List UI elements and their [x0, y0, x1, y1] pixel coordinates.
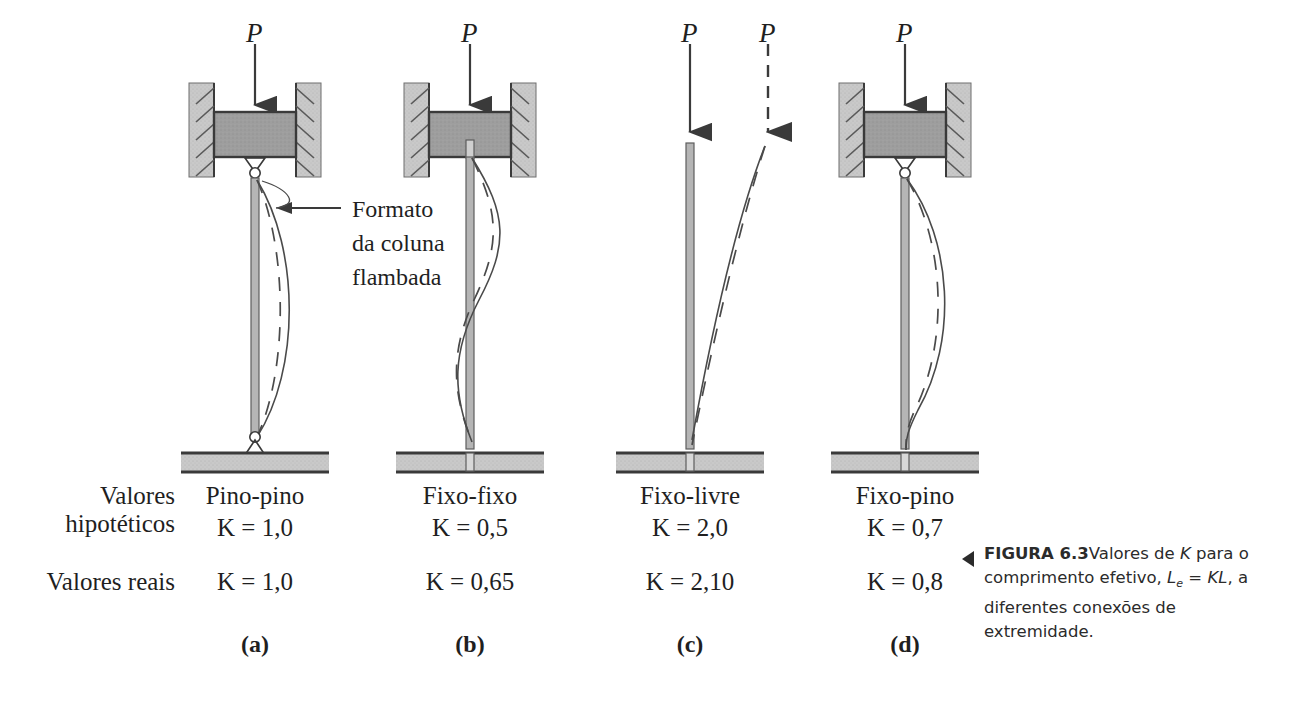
case-d-load-symbol: P	[896, 18, 913, 49]
case-c-buckled-shape-dashed	[692, 146, 765, 445]
case-d-base-plate	[831, 453, 979, 472]
case-d-left-wall	[839, 83, 864, 177]
row-label-hypothetical-line1: Valores	[100, 482, 175, 509]
case-c-column	[686, 143, 694, 449]
case-d-diagram	[831, 44, 979, 472]
case-d-guided-block	[864, 112, 946, 157]
caption-symbol-le: L	[1167, 568, 1176, 587]
case-d-top-pin	[895, 158, 915, 178]
case-a-guided-block	[214, 112, 296, 157]
case-d-right-wall	[946, 83, 971, 177]
case-d-buckled-shape-dashed	[906, 179, 938, 450]
case-a-load-symbol: P	[246, 18, 263, 49]
case-b-name: Fixo-fixo	[423, 482, 517, 510]
row-label-hypothetical: Valores hipotéticos	[0, 482, 175, 538]
case-b-base-plate	[396, 453, 544, 472]
case-c-sublabel: (c)	[677, 631, 704, 658]
case-b-top-fixed-joint	[466, 140, 474, 158]
case-a-column	[251, 178, 259, 436]
case-c-diagram	[616, 44, 768, 472]
case-a-name: Pino-pino	[206, 482, 305, 510]
case-b-load-symbol: P	[461, 18, 478, 49]
caption-symbol-equation: = KL	[1183, 568, 1227, 587]
case-d-name: Fixo-pino	[856, 482, 955, 510]
row-label-hypothetical-line2: hipotéticos	[0, 510, 175, 538]
case-c-k-real: K = 2,10	[646, 568, 734, 596]
caption-arrow-icon	[962, 551, 974, 567]
case-b-buckled-shape-dashed	[457, 158, 494, 442]
case-c-base-plate	[616, 453, 764, 472]
case-b-left-wall	[404, 83, 429, 177]
case-b-column	[466, 157, 474, 449]
case-d-k-hypothetical: K = 0,7	[867, 514, 943, 542]
case-c-load-symbol-dashed: P	[759, 18, 776, 49]
case-b-sublabel: (b)	[455, 631, 484, 658]
case-a-base-plate	[181, 453, 329, 472]
case-a-buckled-shape-solid	[257, 180, 289, 437]
case-a-buckled-shape-dashed	[257, 180, 280, 437]
figure-6-3: P P P P P Formato da coluna flambada Val…	[0, 0, 1299, 728]
row-label-real: Valores reais	[0, 568, 175, 596]
caption-symbol-k: K	[1180, 544, 1191, 563]
caption-figure-number: FIGURA 6.3	[984, 544, 1089, 563]
buckled-shape-annotation: Formato da coluna flambada	[352, 192, 445, 294]
case-a-k-hypothetical: K = 1,0	[217, 514, 293, 542]
case-a-top-pin	[245, 158, 265, 178]
case-a-left-wall	[189, 83, 214, 177]
case-a-diagram	[181, 44, 329, 472]
case-b-buckled-shape-solid	[458, 158, 500, 442]
case-a-right-wall	[296, 83, 321, 177]
case-d-column	[901, 178, 909, 449]
figure-caption: FIGURA 6.3Valores de K para o compriment…	[984, 542, 1284, 644]
case-b-right-wall	[511, 83, 536, 177]
case-a-k-real: K = 1,0	[217, 568, 293, 596]
case-d-k-real: K = 0,8	[867, 568, 943, 596]
caption-text-1: Valores de	[1089, 544, 1180, 563]
case-c-k-hypothetical: K = 2,0	[652, 514, 728, 542]
case-b-k-real: K = 0,65	[426, 568, 514, 596]
case-c-name: Fixo-livre	[640, 482, 740, 510]
case-d-sublabel: (d)	[890, 631, 919, 658]
annotation-leader	[262, 181, 341, 214]
case-c-load-symbol-solid: P	[681, 18, 698, 49]
case-b-k-hypothetical: K = 0,5	[432, 514, 508, 542]
case-d-buckled-shape-solid	[906, 179, 945, 448]
case-a-sublabel: (a)	[241, 631, 269, 658]
